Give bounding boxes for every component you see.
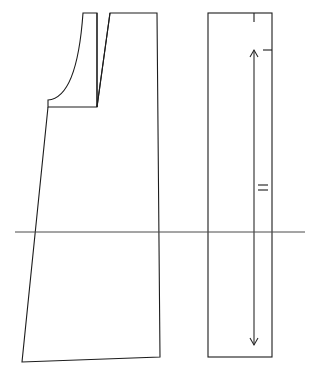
pattern-drawing <box>0 0 322 372</box>
dart-right-leg <box>97 13 110 107</box>
front-bodice-piece-outline <box>48 13 97 107</box>
front-bodice-side-outline <box>22 13 160 362</box>
pattern-sheet-canvas <box>0 0 322 372</box>
